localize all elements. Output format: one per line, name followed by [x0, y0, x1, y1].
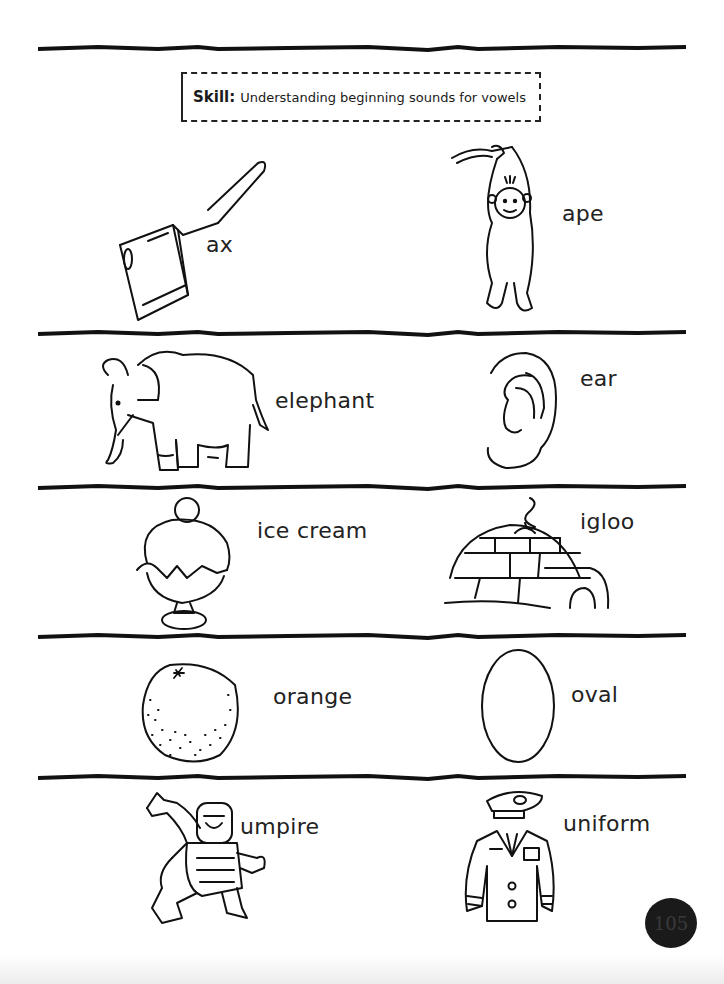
page-number-badge: 105 [645, 898, 697, 948]
skill-label: Skill: [193, 88, 235, 106]
elephant-icon [98, 345, 268, 475]
word-ice-cream: ice cream [257, 518, 368, 543]
ice-cream-icon [132, 498, 237, 633]
skill-text: Understanding beginning sounds for vowel… [240, 90, 526, 105]
ear-icon [486, 348, 566, 473]
divider-row-4 [38, 773, 686, 781]
uniform-icon [452, 786, 562, 926]
divider-row-2 [38, 483, 686, 491]
word-igloo: igloo [580, 509, 635, 534]
divider-row-1 [38, 329, 686, 337]
orange-icon [140, 660, 240, 765]
umpire-icon [142, 788, 267, 928]
word-oval: oval [571, 682, 618, 707]
skill-box: Skill: Understanding beginning sounds fo… [181, 72, 541, 122]
word-ax: ax [206, 232, 233, 257]
word-umpire: umpire [240, 814, 319, 839]
word-ape: ape [562, 201, 604, 226]
page-number: 105 [654, 913, 688, 934]
ape-icon [452, 143, 552, 323]
word-elephant: elephant [275, 388, 375, 413]
word-uniform: uniform [563, 811, 650, 836]
page-bottom-shadow [0, 955, 724, 984]
oval-icon [480, 648, 560, 766]
divider-top [38, 44, 686, 52]
divider-row-3 [38, 632, 686, 640]
word-orange: orange [273, 684, 352, 709]
word-ear: ear [580, 366, 617, 391]
axe-icon [118, 155, 268, 320]
